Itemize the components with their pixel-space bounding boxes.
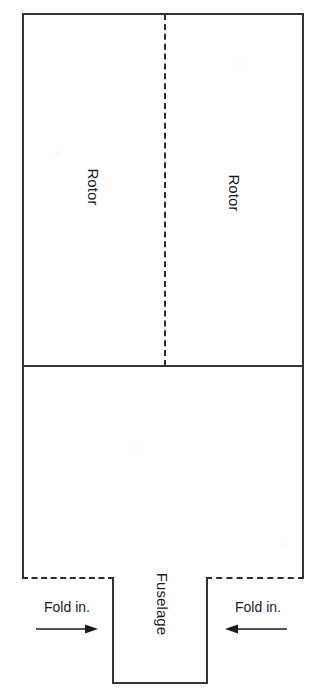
rotor-label-left: Rotor — [85, 168, 102, 205]
fold-flap-left: Fold in. — [22, 577, 114, 684]
arrow-left-icon — [224, 623, 288, 635]
rotor-label-right: Rotor — [226, 174, 243, 211]
fuselage-label: Fuselage — [154, 573, 171, 636]
fold-flap-right: Fold in. — [206, 577, 304, 684]
arrow-right-icon — [35, 623, 99, 635]
fold-in-label-right: Fold in. — [208, 599, 306, 615]
rotor-fold-dashed-line — [164, 14, 166, 366]
rotor-fuselage-divider — [22, 365, 304, 367]
fold-in-label-left: Fold in. — [22, 599, 114, 615]
diagram-canvas: Rotor Rotor Fuselage Fold in. Fold in. — [0, 0, 324, 700]
